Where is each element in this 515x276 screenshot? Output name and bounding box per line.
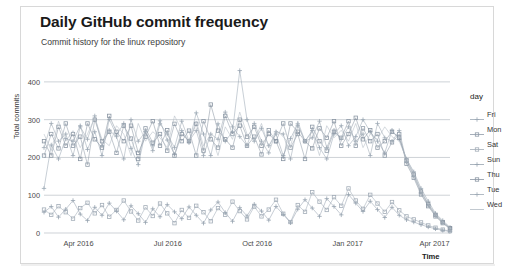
legend-item-tue[interactable]: Tue: [470, 182, 514, 197]
frame-shadow: [21, 264, 495, 266]
legend-label: Thu: [487, 170, 500, 179]
chart-app: Daily GitHub commit frequency Commit his…: [0, 0, 515, 276]
legend-label: Mon: [487, 125, 501, 134]
y-axis-tick: 0: [36, 229, 40, 238]
y-axis-tick: 300: [28, 115, 40, 124]
chart-subtitle: Commit history for the linux repository: [41, 37, 185, 47]
series-thu: [42, 103, 451, 230]
x-axis-tick: Jul 2016: [154, 239, 182, 248]
legend-label: Tue: [487, 185, 499, 194]
legend-item-wed[interactable]: Wed: [470, 197, 514, 212]
x-axis-tick: Oct 2016: [242, 239, 272, 248]
y-axis-tick: 200: [28, 153, 40, 162]
x-axis-label: Time: [422, 252, 440, 261]
legend-item-mon[interactable]: Mon: [470, 122, 514, 137]
legend-marker-icon: [470, 140, 484, 149]
legend-item-sun[interactable]: Sun: [470, 152, 514, 167]
legend-marker-icon: [470, 200, 484, 209]
plot-area: 0100200300400Apr 2016Jul 2016Oct 2016Jan…: [44, 63, 450, 233]
legend-marker-icon: [470, 155, 484, 164]
legend-label: Wed: [487, 200, 502, 209]
legend-marker-icon: [470, 125, 484, 134]
y-axis-tick: 400: [28, 77, 40, 86]
legend-marker-icon: [470, 170, 484, 179]
x-axis-tick: Apr 2017: [420, 239, 450, 248]
y-axis-tick: 100: [28, 191, 40, 200]
legend: day FriMonSatSunThuTueWed: [470, 92, 514, 212]
legend-label: Fri: [487, 110, 496, 119]
x-axis-tick: Apr 2016: [64, 239, 94, 248]
y-axis-label: Total commits: [12, 82, 21, 152]
series-sun: [42, 192, 452, 233]
legend-label: Sat: [487, 140, 498, 149]
chart-title: Daily GitHub commit frequency: [40, 13, 268, 31]
x-axis-tick: Jan 2017: [332, 239, 362, 248]
legend-label: Sun: [487, 155, 500, 164]
legend-title: day: [470, 92, 514, 101]
legend-item-fri[interactable]: Fri: [470, 107, 514, 122]
chart-svg: [44, 63, 450, 233]
legend-item-sat[interactable]: Sat: [470, 137, 514, 152]
legend-marker-icon: [470, 185, 484, 194]
legend-items: FriMonSatSunThuTueWed: [470, 107, 514, 212]
legend-marker-icon: [470, 110, 484, 119]
legend-item-thu[interactable]: Thu: [470, 167, 514, 182]
